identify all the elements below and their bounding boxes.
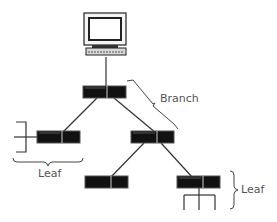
- hub-icon-middle: [131, 131, 174, 143]
- hub-icon-bottom-right: [177, 176, 220, 188]
- leaf-right-label: Leaf: [241, 184, 264, 195]
- edge-hub-top-to-hub-middle: [114, 98, 156, 133]
- leaf-right-brace: [230, 171, 238, 209]
- tree-topology-diagram: [0, 0, 277, 222]
- hub-icon-top: [83, 86, 126, 98]
- edge-hub-middle-to-hub-bottom-right: [161, 143, 193, 178]
- leaf-left-brace: [13, 158, 83, 166]
- branch-label: Branch: [160, 93, 199, 104]
- edge-hub-top-to-hub-left: [62, 98, 97, 133]
- braces: [13, 80, 238, 209]
- edge-hub-middle-to-hub-bottom-left: [110, 143, 144, 178]
- computer-icon: [84, 13, 126, 55]
- hub-icon-bottom-left: [85, 176, 128, 188]
- leaf-left-label: Leaf: [38, 168, 61, 179]
- hub-icon-left: [37, 131, 80, 143]
